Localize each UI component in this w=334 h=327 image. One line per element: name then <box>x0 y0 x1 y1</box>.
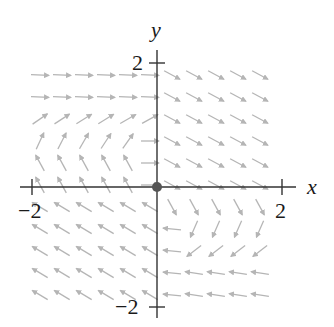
direction-arrow <box>190 221 197 238</box>
direction-arrow <box>76 290 91 299</box>
direction-arrow <box>207 272 225 275</box>
direction-arrow <box>186 93 202 102</box>
direction-arrow <box>54 246 69 255</box>
y-tick-label-neg2: −2 <box>115 296 138 318</box>
direction-arrow <box>120 246 135 255</box>
direction-arrow <box>32 290 47 299</box>
x-tick-label-neg2: −2 <box>18 200 41 222</box>
direction-arrow <box>32 224 47 233</box>
direction-arrow <box>142 115 158 124</box>
direction-arrow <box>168 199 177 215</box>
direction-arrow <box>208 159 224 168</box>
direction-arrow <box>231 246 245 257</box>
direction-arrow <box>54 224 69 233</box>
direction-arrow <box>208 181 224 190</box>
direction-arrow <box>229 294 247 297</box>
direction-arrow <box>76 224 91 233</box>
direction-arrow <box>97 97 115 98</box>
direction-arrow <box>80 133 89 149</box>
direction-arrow <box>120 115 136 124</box>
direction-arrow <box>186 115 202 124</box>
direction-arrow <box>186 159 202 168</box>
direction-arrow <box>164 159 180 168</box>
direction-arrow <box>58 133 66 149</box>
direction-arrow <box>230 71 246 80</box>
direction-arrow <box>120 202 135 211</box>
direction-arrow <box>32 246 47 255</box>
direction-arrow <box>32 268 47 277</box>
direction-arrow <box>252 137 268 146</box>
direction-arrow <box>98 202 113 211</box>
direction-arrow <box>102 177 111 193</box>
direction-arrow <box>164 137 180 146</box>
direction-arrow <box>163 294 181 296</box>
direction-arrow <box>55 114 70 124</box>
direction-arrow <box>256 221 263 238</box>
direction-arrow <box>186 137 202 146</box>
direction-arrow <box>142 202 157 211</box>
direction-arrow <box>187 246 201 257</box>
direction-arrow <box>75 97 93 98</box>
direction-field-plot <box>0 0 334 327</box>
direction-arrow <box>230 137 246 146</box>
direction-arrow <box>119 97 137 98</box>
direction-arrow <box>142 268 157 277</box>
direction-arrow <box>163 228 181 230</box>
direction-arrow <box>142 290 157 299</box>
direction-arrow <box>229 272 247 275</box>
direction-arrow <box>185 294 203 297</box>
direction-arrow <box>186 71 202 80</box>
direction-arrow <box>31 75 49 76</box>
direction-arrow <box>208 93 224 102</box>
y-tick-label-pos2: 2 <box>132 52 143 74</box>
direction-arrow <box>76 202 91 211</box>
direction-arrow <box>98 246 113 255</box>
direction-arrow <box>76 114 91 124</box>
direction-arrow <box>142 246 157 255</box>
direction-arrow <box>58 177 67 193</box>
direction-arrow <box>120 268 135 277</box>
direction-arrow <box>76 246 91 255</box>
direction-arrow <box>98 114 113 123</box>
direction-arrow <box>54 202 69 211</box>
direction-arrow <box>185 272 203 275</box>
direction-arrow <box>53 97 71 98</box>
x-tick-label-pos2: 2 <box>275 200 286 222</box>
direction-arrow <box>163 272 181 274</box>
y-axis-label: y <box>151 19 161 41</box>
direction-arrow <box>251 272 269 275</box>
direction-arrow <box>33 114 48 124</box>
direction-arrow <box>252 115 268 124</box>
direction-arrow <box>124 177 133 193</box>
direction-arrow <box>230 115 246 124</box>
direction-arrow <box>209 246 223 257</box>
direction-arrow <box>212 221 219 238</box>
direction-arrow <box>164 115 180 124</box>
equilibrium-point <box>152 182 162 192</box>
direction-arrow <box>75 75 93 76</box>
direction-arrow <box>97 75 115 76</box>
direction-arrow <box>98 268 113 277</box>
direction-arrow <box>54 268 69 277</box>
direction-arrow <box>98 224 113 233</box>
direction-arrow <box>230 159 246 168</box>
direction-arrow <box>80 155 89 171</box>
direction-arrow <box>164 71 180 80</box>
direction-arrow <box>102 155 111 171</box>
direction-arrow <box>123 134 133 149</box>
direction-arrow <box>230 181 246 190</box>
direction-arrow <box>164 93 180 102</box>
direction-arrow <box>253 246 267 257</box>
direction-arrow <box>208 71 224 80</box>
direction-arrow <box>208 115 224 124</box>
direction-arrow <box>142 224 157 233</box>
direction-arrow <box>252 159 268 168</box>
direction-arrow <box>53 75 71 76</box>
direction-arrow <box>230 93 246 102</box>
direction-arrow <box>31 97 49 98</box>
direction-arrow <box>163 250 181 252</box>
direction-arrow <box>208 137 224 146</box>
direction-arrow <box>234 221 241 238</box>
direction-arrow <box>36 177 45 193</box>
direction-arrow <box>207 294 225 297</box>
